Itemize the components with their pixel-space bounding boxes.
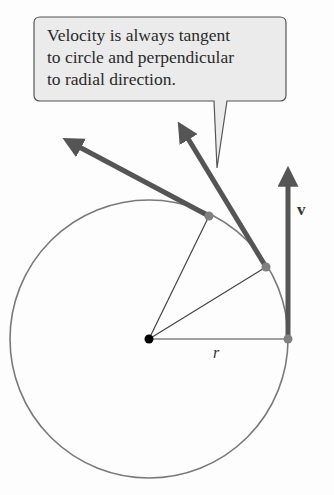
velocity-arrows [68, 127, 288, 339]
radius-label: r [213, 344, 220, 361]
callout-line-3: to radial direction. [47, 69, 176, 89]
callout-line-2: to circle and perpendicular [47, 47, 234, 67]
velocity-label: v [297, 200, 306, 219]
center-point [145, 335, 154, 344]
circular-motion-diagram: v r Velocity is always tangent to circle… [0, 0, 334, 495]
diagram-stage: v r Velocity is always tangent to circle… [0, 0, 334, 495]
velocity-arrow-3 [68, 141, 209, 216]
radius-lines [149, 216, 288, 339]
callout-line-1: Velocity is always tangent [47, 25, 230, 45]
